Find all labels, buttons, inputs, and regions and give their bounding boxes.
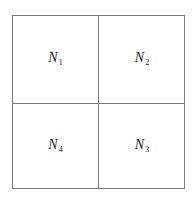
label-n4: N4 — [48, 138, 62, 154]
label-n1: N1 — [48, 51, 62, 67]
cell-bottom-right: N3 — [99, 104, 185, 189]
cell-bottom-left: N4 — [13, 104, 98, 189]
cell-top-right: N2 — [99, 16, 185, 103]
cell-top-left: N1 — [13, 16, 98, 103]
label-n2: N2 — [135, 51, 149, 67]
label-n3: N3 — [135, 138, 149, 154]
quadrant-grid: N1 N2 N4 N3 — [12, 15, 185, 189]
